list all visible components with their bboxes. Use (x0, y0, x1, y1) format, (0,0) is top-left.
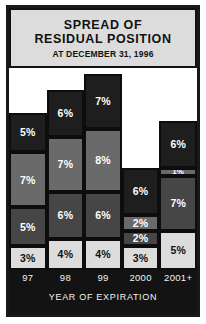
bar-segment-label: 6% (58, 210, 74, 221)
bar-segment: 5% (9, 207, 47, 246)
bar-segment: 3% (9, 246, 47, 270)
bar-segment-label: 5% (20, 127, 36, 138)
bar-segment-label: 3% (20, 253, 36, 264)
bar-segment: 7% (84, 74, 122, 129)
bar-segment: 7% (47, 137, 85, 192)
bar-segment: 4% (47, 239, 85, 270)
bar-segment-label: 4% (58, 249, 74, 260)
stacked-bar-2000: 6%2%2%3% (122, 168, 160, 270)
bar-segment-label: 7% (20, 175, 36, 186)
stacked-bar-98: 6%7%6%4% (47, 90, 85, 270)
bar-segment-label: 7% (58, 159, 74, 170)
x-axis-tick-label: 98 (47, 272, 85, 283)
chart-title-line-2: RESIDUAL POSITION (34, 32, 171, 46)
bar-segment: 5% (159, 231, 197, 270)
bar-segment-label: 2% (133, 233, 149, 244)
bar-segment: 2% (122, 231, 160, 247)
chart-title-line-1: SPREAD OF (64, 18, 142, 32)
x-axis-tick-row: 97989920002001+ (9, 272, 197, 290)
bar-segment: 6% (47, 90, 85, 137)
bar-segment-label: 5% (20, 222, 36, 233)
chart-title-panel: SPREAD OF RESIDUAL POSITION AT DECEMBER … (9, 8, 197, 68)
bar-segment: 4% (84, 239, 122, 270)
bar-segment: 5% (9, 113, 47, 152)
stacked-bar-2001plus: 6%1%7%5% (159, 121, 197, 270)
bar-segment: 3% (122, 246, 160, 270)
bar-segment-label: 6% (95, 210, 111, 221)
bar-segment: 6% (84, 192, 122, 239)
bar-segment: 6% (159, 121, 197, 168)
bar-segment-label: 6% (133, 186, 149, 197)
chart-plot-area: 5%7%5%3%6%7%6%4%7%8%6%4%6%2%2%3%6%1%7%5%… (9, 70, 197, 314)
x-axis-title: YEAR OF EXPIRATION (9, 292, 197, 302)
bar-segment-label: 1% (172, 168, 184, 176)
stacked-bar-97: 5%7%5%3% (9, 113, 47, 270)
bar-segment: 2% (122, 215, 160, 231)
bar-segment: 7% (159, 176, 197, 231)
stacked-bar-99: 7%8%6%4% (84, 74, 122, 270)
bar-segment-label: 6% (58, 108, 74, 119)
chart-figure: SPREAD OF RESIDUAL POSITION AT DECEMBER … (0, 0, 206, 324)
bar-segment: 6% (47, 192, 85, 239)
bar-segment-label: 7% (95, 96, 111, 107)
x-axis-tick-label: 2000 (122, 272, 160, 283)
bar-segment: 8% (84, 129, 122, 192)
bar-segment-label: 6% (170, 139, 186, 150)
x-axis-tick-label: 99 (84, 272, 122, 283)
bar-segment: 1% (159, 168, 197, 176)
bar-segment-label: 2% (133, 218, 149, 229)
x-axis-strip: 97989920002001+ YEAR OF EXPIRATION (9, 270, 197, 314)
x-axis-tick-label: 97 (9, 272, 47, 283)
stacked-bars-layer: 5%7%5%3%6%7%6%4%7%8%6%4%6%2%2%3%6%1%7%5% (9, 70, 197, 270)
bar-segment: 7% (9, 152, 47, 207)
bar-segment-label: 8% (95, 155, 111, 166)
bar-segment: 6% (122, 168, 160, 215)
bar-segment-label: 7% (170, 198, 186, 209)
x-axis-tick-label: 2001+ (159, 272, 197, 283)
bar-segment-label: 3% (133, 253, 149, 264)
chart-subtitle: AT DECEMBER 31, 1996 (52, 49, 153, 60)
bar-segment-label: 4% (95, 249, 111, 260)
bar-segment-label: 5% (170, 245, 186, 256)
